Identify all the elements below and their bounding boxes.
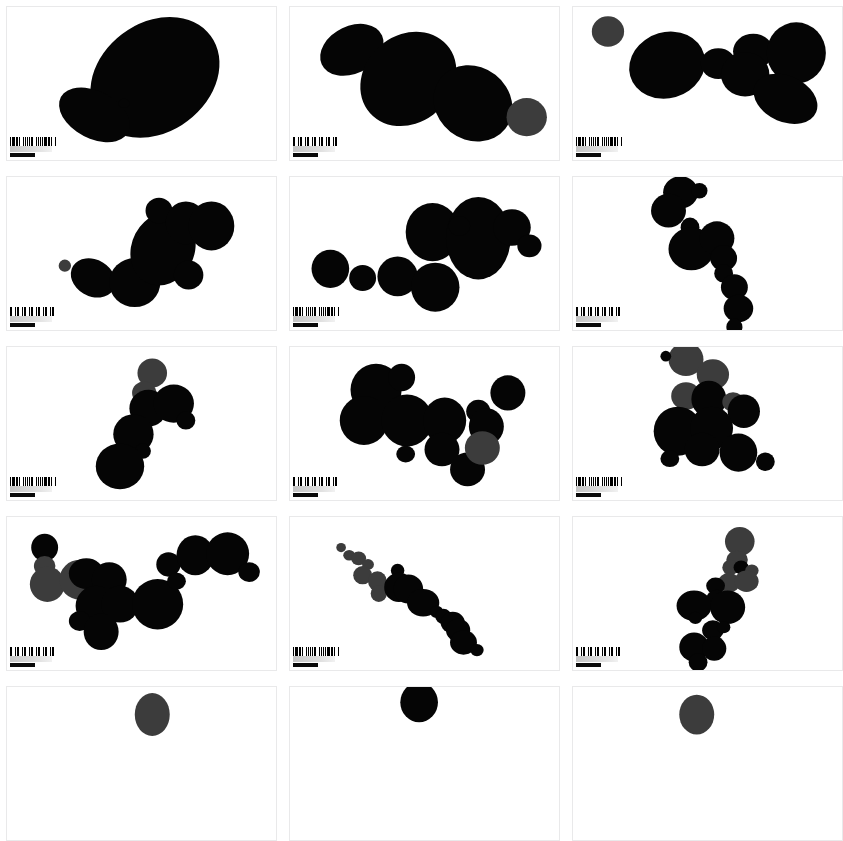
blob-shape <box>720 433 758 471</box>
blob-shape <box>312 250 350 288</box>
blob-canvas <box>290 177 559 330</box>
blob-shape <box>734 571 758 592</box>
blob-shape <box>679 695 714 735</box>
image-panel[interactable] <box>572 346 843 501</box>
image-panel[interactable] <box>6 176 277 331</box>
blob-canvas <box>290 347 559 500</box>
blob-shape <box>167 573 186 590</box>
image-panel[interactable] <box>289 6 560 161</box>
blob-canvas <box>7 7 276 160</box>
blob-shape <box>507 98 547 136</box>
blob-shape <box>400 687 438 722</box>
blob-shape <box>490 375 525 410</box>
image-panel[interactable] <box>6 686 277 841</box>
blob-shape <box>336 543 346 552</box>
blob-canvas <box>7 347 276 500</box>
blob-canvas <box>573 517 842 670</box>
blob-canvas <box>290 517 559 670</box>
blob-shape <box>174 260 204 289</box>
blob-canvas <box>7 177 276 330</box>
image-panel[interactable] <box>6 346 277 501</box>
blob-canvas <box>573 177 842 330</box>
blob-shape <box>728 394 760 428</box>
blob-shape <box>340 396 388 445</box>
image-panel[interactable] <box>289 346 560 501</box>
blob-shape <box>189 201 235 250</box>
blob-shape <box>135 693 170 736</box>
image-panel[interactable] <box>289 176 560 331</box>
blob-shape <box>710 590 745 624</box>
image-panel[interactable] <box>572 686 843 841</box>
blob-shape <box>660 450 679 467</box>
blob-shape <box>685 433 720 467</box>
blob-canvas <box>290 7 559 160</box>
image-panel[interactable] <box>6 6 277 161</box>
image-panel[interactable] <box>289 686 560 841</box>
blob-canvas <box>7 517 276 670</box>
blob-canvas <box>573 347 842 500</box>
image-panel[interactable] <box>6 516 277 671</box>
image-panel[interactable] <box>289 516 560 671</box>
blob-canvas <box>7 687 276 840</box>
blob-shape <box>30 567 65 602</box>
blob-shape <box>96 443 144 489</box>
blob-shape <box>59 260 71 272</box>
blob-shape <box>470 644 483 656</box>
blob-shape <box>724 295 754 323</box>
blob-canvas <box>290 687 559 840</box>
blob-shape <box>592 16 624 47</box>
image-panel[interactable] <box>572 176 843 331</box>
blob-shape <box>238 562 260 582</box>
blob-shape <box>349 265 376 291</box>
blob-shape <box>624 29 711 100</box>
blob-shape <box>396 446 415 463</box>
blob-shape <box>651 194 686 228</box>
blob-canvas <box>573 687 842 840</box>
blob-shape <box>411 263 459 312</box>
blob-shape <box>689 612 702 624</box>
blob-shape <box>449 216 471 236</box>
blob-shape <box>84 613 119 650</box>
blob-shape <box>756 453 775 471</box>
blob-shape <box>691 183 707 198</box>
image-panel[interactable] <box>572 6 843 161</box>
blob-shape <box>119 99 130 108</box>
image-panel[interactable] <box>572 516 843 671</box>
blob-shape <box>717 621 730 633</box>
blob-shape <box>388 364 415 392</box>
blob-shape <box>176 411 195 429</box>
blob-shape <box>465 431 500 465</box>
blob-canvas <box>573 7 842 160</box>
blob-shape <box>660 351 671 362</box>
blob-shape <box>517 234 541 257</box>
